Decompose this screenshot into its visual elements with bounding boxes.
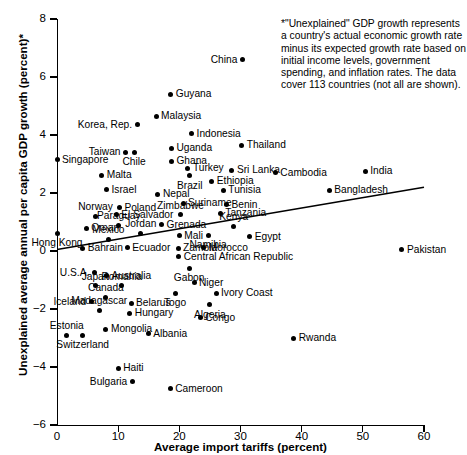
data-point [64,333,69,338]
point-label: Congo [205,313,235,323]
point-label: Niger [199,278,223,288]
data-point [132,150,137,155]
data-point [240,57,245,62]
point-label: Bangladesh [334,185,388,195]
data-point [123,150,128,155]
point-label: Israel [112,184,137,194]
data-point [129,301,134,306]
data-point [146,331,151,336]
data-point [214,291,219,296]
data-point [206,233,211,238]
point-label: Singapore [62,155,108,165]
data-point [291,336,296,341]
point-label: Malta [107,170,132,180]
point-label: Bahrain [88,243,123,253]
point-label: Jordan [125,219,156,229]
data-point [138,231,143,236]
data-point [173,291,178,296]
point-label: Rwanda [299,333,336,343]
point-label: China [211,54,238,64]
point-label: Cambodia [280,168,326,178]
data-point [169,159,174,164]
data-point [198,315,203,320]
point-label: Egypt [255,231,281,241]
point-label: Madagascar [71,296,127,306]
data-point [80,333,85,338]
data-point [125,245,130,250]
data-point [221,188,226,193]
data-point [327,188,332,193]
point-label: Hungary [135,308,174,318]
point-label: Kenya [219,212,248,222]
data-point [80,246,85,251]
point-label: Switzerland [56,340,109,350]
point-label: Grenada [167,220,207,230]
point-label: Canada [88,283,124,293]
data-point [363,169,368,174]
data-point [99,173,104,178]
data-point [84,226,89,231]
point-label: Bulgaria [90,376,127,386]
point-label: Chile [122,157,145,167]
data-point [97,308,102,313]
point-label: Korea, Rep. [78,120,132,130]
data-point [169,146,174,151]
point-label: Albania [153,329,187,339]
point-label: Tunisia [228,185,260,195]
point-label: Estonia [50,321,84,331]
point-label: Uganda [176,143,212,153]
point-label: Ivory Coast [221,288,273,298]
data-point [55,157,60,162]
point-label: Romania [101,272,142,282]
data-point [116,366,121,371]
point-label: Indonesia [197,128,241,138]
data-point [192,280,197,285]
point-label: Cameroon [175,384,223,394]
point-label: Nepal [163,189,190,199]
data-point [154,114,159,119]
data-point [239,143,244,148]
point-label: Pakistan [407,244,446,254]
point-label: Guyana [176,89,212,99]
data-point [187,266,192,271]
point-label: India [370,166,392,176]
point-label: Zimbabwe [157,201,204,211]
data-point [176,246,181,251]
data-point [168,386,173,391]
data-point [130,379,135,384]
scatter-chart: −6−4−202468 0102030405060 Unexplained av… [0,0,467,455]
point-label: Ecuador [132,242,170,252]
point-label: Central African Republic [184,252,293,262]
point-label: Hong Kong [32,238,83,248]
point-label: Thailand [247,140,286,150]
point-label: Turkey [193,163,224,173]
point-label: Mexico [92,225,124,235]
data-point [55,231,60,236]
point-label: Haiti [123,363,143,373]
point-label: Malaysia [161,111,201,121]
